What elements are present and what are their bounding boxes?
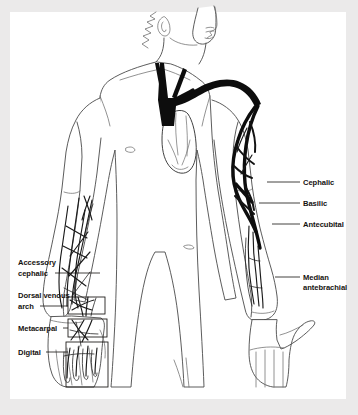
groin-line <box>174 360 183 387</box>
figure-root: CephalicBasilicAntecubitalMedianantebrac… <box>0 0 358 415</box>
label-dorsal-venous-arch-line2: arch <box>18 302 34 311</box>
label-median-antebrachial-line1: Median <box>303 273 329 282</box>
label-antecubital: Antecubital <box>303 220 344 229</box>
label-cephalic: Cephalic <box>303 178 334 187</box>
label-median-antebrachial-line2: antebrachial <box>303 283 347 292</box>
hairline <box>142 12 156 48</box>
label-accessory-cephalic-line1: Accessory <box>18 258 57 267</box>
label-dorsal-venous-arch-line1: Dorsal venous <box>18 291 70 300</box>
label-metacarpal: Metacarpal <box>18 324 57 333</box>
label-accessory-cephalic-line2: cephalic <box>18 269 48 278</box>
head-profile <box>193 6 216 44</box>
jaw-shadow <box>170 38 197 45</box>
ear-outline <box>158 17 170 36</box>
upper-arm-anastomosis-1 <box>250 122 255 152</box>
head-group <box>142 6 217 64</box>
right-arm-group <box>212 100 315 387</box>
anatomy-diagram: CephalicBasilicAntecubitalMedianantebrac… <box>0 0 358 415</box>
neck-outline-right <box>199 43 206 64</box>
right-hand-outline <box>249 320 315 387</box>
ear-inner <box>162 22 167 32</box>
neck-outline <box>156 38 164 62</box>
label-basilic: Basilic <box>303 199 327 208</box>
label-digital: Digital <box>18 348 41 357</box>
